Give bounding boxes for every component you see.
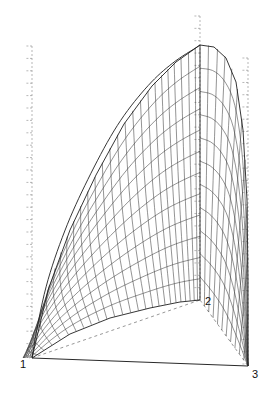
vertex-2-label: 2 bbox=[205, 295, 211, 307]
base-edge-1-2 bbox=[32, 300, 200, 358]
vertex-3-label: 3 bbox=[252, 368, 258, 380]
vertex-1-label: 1 bbox=[20, 358, 26, 370]
base-edge-1-3 bbox=[32, 358, 248, 366]
mesh-back-sheet bbox=[200, 46, 248, 366]
mesh-layer bbox=[23, 46, 248, 366]
mesh-contour-line bbox=[28, 258, 201, 359]
mesh-generator-line bbox=[133, 111, 153, 308]
surface-outline-layer bbox=[32, 45, 248, 366]
mesh-contour-line bbox=[200, 277, 248, 366]
mesh-contour-line bbox=[200, 115, 248, 366]
mesh-generator-line bbox=[209, 49, 218, 312]
mesh-generator-line bbox=[162, 75, 177, 302]
mesh-contour-line bbox=[30, 279, 200, 358]
mesh-contour-line bbox=[26, 236, 200, 358]
mesh-contour-line bbox=[24, 130, 200, 358]
surface-plot-canvas: 123 bbox=[0, 0, 266, 393]
mesh-generator-line bbox=[53, 268, 68, 334]
mesh-generator-line bbox=[204, 46, 208, 306]
mesh-generator-line bbox=[174, 64, 186, 302]
surface-plot-figure: 123 bbox=[0, 0, 266, 393]
mesh-front-sheet bbox=[23, 48, 200, 358]
left-axis bbox=[25, 46, 32, 356]
mesh-generator-line bbox=[213, 56, 225, 318]
center-axis bbox=[193, 16, 200, 300]
mesh-generator-line bbox=[188, 53, 194, 301]
base-triangle-layer bbox=[32, 300, 248, 366]
